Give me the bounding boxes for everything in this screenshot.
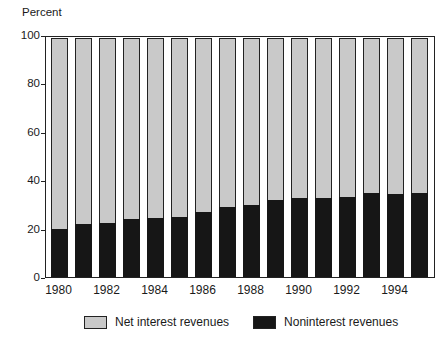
bar-1980 [51,38,68,277]
y-tick-label-100: 100 [8,30,40,42]
bar-segment-noninterest-1985 [171,217,188,277]
x-tick-label-1982: 1982 [87,283,127,297]
bar-segment-noninterest-1994 [387,194,404,277]
bar-segment-noninterest-1986 [195,212,212,277]
bar-segment-noninterest-1988 [243,205,260,277]
bar-segment-noninterest-1995 [411,193,428,277]
x-tick-label-1992: 1992 [327,283,367,297]
net-interest-swatch-icon [84,316,107,329]
bar-1982 [99,38,116,277]
y-tick-label-40: 40 [8,175,40,187]
bar-segment-noninterest-1984 [147,218,164,277]
y-tick-label-60: 60 [8,127,40,139]
bar-segment-noninterest-1982 [99,223,116,277]
y-tick-label-0: 0 [8,272,40,284]
bar-segment-noninterest-1992 [339,197,356,277]
bar-segment-noninterest-1980 [51,229,68,277]
legend-label-net-interest: Net interest revenues [115,315,229,329]
stacked-bar-chart: Percent 020406080100 1980198219841986198… [0,0,444,348]
bar-1993 [363,38,380,277]
bar-segment-noninterest-1981 [75,224,92,277]
bar-segment-noninterest-1991 [315,198,332,277]
bar-1981 [75,38,92,277]
bar-segment-noninterest-1989 [267,200,284,277]
x-tick-label-1990: 1990 [279,283,319,297]
bar-segment-noninterest-1993 [363,193,380,277]
legend-item-noninterest: Noninterest revenues [253,315,398,329]
x-tick-label-1984: 1984 [135,283,175,297]
bar-1992 [339,38,356,277]
bar-1987 [219,38,236,277]
bar-segment-noninterest-1987 [219,207,236,277]
bar-1989 [267,38,284,277]
bar-segment-noninterest-1983 [123,219,140,277]
bar-1988 [243,38,260,277]
legend-item-net-interest: Net interest revenues [84,315,229,329]
bar-1995 [411,38,428,277]
y-tick-mark [41,278,45,279]
bar-1986 [195,38,212,277]
legend: Net interest revenues Noninterest revenu… [84,315,398,329]
bar-1990 [291,38,308,277]
bar-1985 [171,38,188,277]
bar-1994 [387,38,404,277]
bar-1991 [315,38,332,277]
y-tick-label-80: 80 [8,79,40,91]
legend-label-noninterest: Noninterest revenues [284,315,398,329]
x-tick-label-1994: 1994 [375,283,415,297]
y-axis-unit-label: Percent [22,6,62,18]
x-tick-label-1988: 1988 [231,283,271,297]
x-tick-label-1986: 1986 [183,283,223,297]
x-tick-label-1980: 1980 [39,283,79,297]
noninterest-swatch-icon [253,316,276,329]
bar-segment-noninterest-1990 [291,198,308,277]
plot-area [45,36,435,278]
bar-1983 [123,38,140,277]
y-tick-label-20: 20 [8,224,40,236]
bar-1984 [147,38,164,277]
